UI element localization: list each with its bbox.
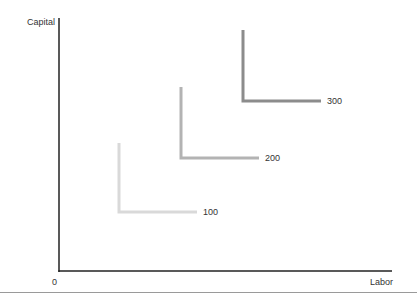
y-axis-label: Capital: [27, 17, 55, 27]
isoquant-200: [181, 87, 259, 158]
x-axis-label: Labor: [370, 277, 393, 287]
isoquant-300: [243, 30, 321, 101]
isoquant-100-label: 100: [203, 207, 218, 217]
isoquant-100: [119, 143, 197, 212]
isoquant-200-label: 200: [265, 153, 280, 163]
isoquant-300-label: 300: [327, 96, 342, 106]
isoquant-diagram: Capital Labor 0 100 200 300: [0, 0, 417, 298]
origin-label: 0: [52, 277, 57, 287]
